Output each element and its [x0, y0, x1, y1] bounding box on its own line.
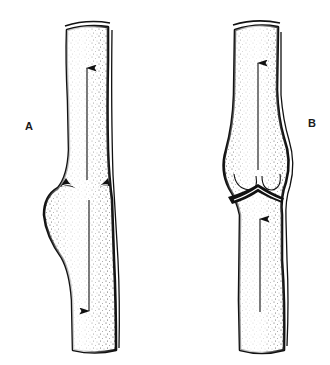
vein-a	[44, 22, 119, 353]
panel-label-b: B	[308, 117, 316, 129]
vein-b	[224, 21, 293, 353]
panel-label-a: A	[25, 120, 33, 132]
vein-valve-diagram	[0, 0, 330, 365]
